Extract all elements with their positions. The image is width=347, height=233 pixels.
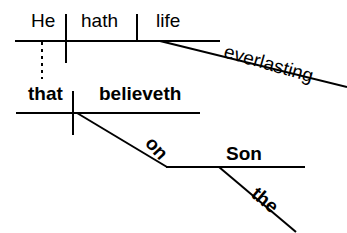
- word-label-that: that: [28, 84, 63, 103]
- word-label-son: Son: [226, 144, 262, 163]
- word-label-hath: hath: [81, 11, 118, 30]
- word-label-believeth: believeth: [99, 84, 181, 103]
- word-label-he: He: [31, 11, 55, 30]
- sentence-diagram: He hath life everlasting that believeth …: [0, 0, 347, 233]
- word-label-life: life: [156, 11, 180, 30]
- diagram-canvas: [0, 0, 347, 233]
